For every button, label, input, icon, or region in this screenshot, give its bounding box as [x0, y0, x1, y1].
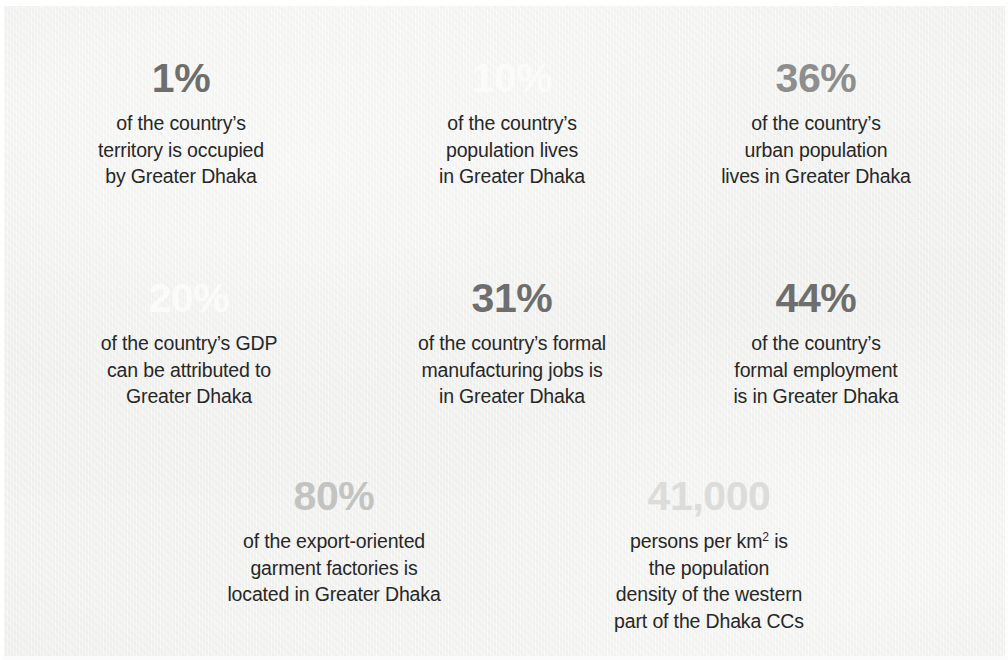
stat-description-line: manufacturing jobs is — [418, 357, 606, 384]
stat-territory: 1% of the country’s territory is occupie… — [98, 58, 264, 190]
stat-gdp: 20% of the country’s GDP can be attribut… — [101, 278, 278, 410]
stat-value: 20% — [101, 278, 278, 319]
stat-value: 10% — [439, 58, 585, 99]
stat-description-line: can be attributed to — [101, 357, 278, 384]
stat-urban-population: 36% of the country’s urban population li… — [721, 58, 911, 190]
stat-description: persons per km2 is the population densit… — [614, 528, 804, 634]
stat-description-line: part of the Dhaka CCs — [614, 608, 804, 635]
stat-description-line: in Greater Dhaka — [439, 163, 585, 190]
stat-description-line: urban population — [721, 137, 911, 164]
stat-description-line: the population — [614, 555, 804, 582]
stat-description-line: formal employment — [733, 357, 898, 384]
stat-description: of the country’s population lives in Gre… — [439, 110, 585, 190]
stat-description-line: is in Greater Dhaka — [733, 383, 898, 410]
stat-value: 80% — [227, 476, 440, 517]
stat-description-line: density of the western — [614, 581, 804, 608]
stat-description-line: of the country’s — [439, 110, 585, 137]
stat-population-density: 41,000 persons per km2 is the population… — [614, 476, 804, 634]
stat-value: 31% — [418, 278, 606, 319]
stat-population: 10% of the country’s population lives in… — [439, 58, 585, 190]
stat-description-line: by Greater Dhaka — [98, 163, 264, 190]
superscript-two: 2 — [762, 530, 769, 544]
stat-description-line: garment factories is — [227, 555, 440, 582]
infographic-panel: 1% of the country’s territory is occupie… — [0, 0, 1008, 660]
stat-description-line: of the country’s — [733, 330, 898, 357]
stat-description: of the country’s urban population lives … — [721, 110, 911, 190]
stat-value: 41,000 — [614, 476, 804, 517]
stat-description-line: territory is occupied — [98, 137, 264, 164]
stat-description: of the country’s formal employment is in… — [733, 330, 898, 410]
stat-value: 36% — [721, 58, 911, 99]
stat-description-line: located in Greater Dhaka — [227, 581, 440, 608]
stat-value: 1% — [98, 58, 264, 99]
stat-description-line: lives in Greater Dhaka — [721, 163, 911, 190]
stat-description: of the country’s territory is occupied b… — [98, 110, 264, 190]
stat-value: 44% — [733, 278, 898, 319]
stat-description: of the export-oriented garment factories… — [227, 528, 440, 608]
stat-description-line: Greater Dhaka — [101, 383, 278, 410]
stat-description-line: population lives — [439, 137, 585, 164]
stat-description-line-unit: persons per km2 is — [614, 528, 804, 555]
stat-description-line: of the country’s formal — [418, 330, 606, 357]
stat-description-line: of the country’s — [98, 110, 264, 137]
stat-formal-employment: 44% of the country’s formal employment i… — [733, 278, 898, 410]
stat-description-line: of the country’s GDP — [101, 330, 278, 357]
stat-description: of the country’s formal manufacturing jo… — [418, 330, 606, 410]
stat-description-line: of the export-oriented — [227, 528, 440, 555]
stat-garment-factories: 80% of the export-oriented garment facto… — [227, 476, 440, 608]
stat-description-line: in Greater Dhaka — [418, 383, 606, 410]
stat-description: of the country’s GDP can be attributed t… — [101, 330, 278, 410]
stat-description-line: of the country’s — [721, 110, 911, 137]
stat-manufacturing-jobs: 31% of the country’s formal manufacturin… — [418, 278, 606, 410]
